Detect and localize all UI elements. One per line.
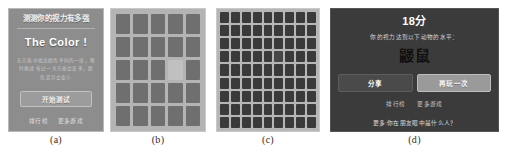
- color-tile[interactable]: [242, 38, 251, 49]
- color-tile[interactable]: [285, 51, 294, 62]
- start-test-button[interactable]: 开始测试: [20, 91, 92, 107]
- color-tile[interactable]: [231, 104, 240, 115]
- color-tile[interactable]: [186, 106, 200, 126]
- color-tile[interactable]: [307, 64, 316, 75]
- color-tile[interactable]: [242, 25, 251, 36]
- color-tile[interactable]: [231, 25, 240, 36]
- color-tile[interactable]: [307, 51, 316, 62]
- color-tile[interactable]: [285, 38, 294, 49]
- color-tile[interactable]: [285, 117, 294, 128]
- more-games-link[interactable]: 更多游戏: [417, 100, 442, 108]
- color-tile[interactable]: [307, 25, 316, 36]
- color-tile[interactable]: [307, 38, 316, 49]
- color-tile[interactable]: [264, 78, 273, 89]
- color-tile[interactable]: [186, 37, 200, 57]
- color-tile[interactable]: [231, 78, 240, 89]
- color-tile[interactable]: [264, 91, 273, 102]
- color-tile[interactable]: [168, 106, 182, 126]
- color-tile[interactable]: [220, 117, 229, 128]
- color-tile[interactable]: [253, 38, 262, 49]
- color-tile[interactable]: [186, 83, 200, 103]
- color-tile[interactable]: [296, 25, 305, 36]
- color-tile[interactable]: [220, 38, 229, 49]
- share-button[interactable]: 分享: [338, 74, 413, 92]
- color-tile[interactable]: [242, 64, 251, 75]
- color-tile[interactable]: [116, 37, 130, 57]
- color-tile[interactable]: [151, 14, 165, 34]
- color-tile[interactable]: [220, 64, 229, 75]
- color-tile[interactable]: [253, 117, 262, 128]
- color-tile[interactable]: [220, 104, 229, 115]
- color-tile[interactable]: [296, 38, 305, 49]
- color-tile[interactable]: [264, 104, 273, 115]
- color-tile[interactable]: [285, 25, 294, 36]
- replay-button[interactable]: 再玩一次: [417, 74, 492, 92]
- color-tile[interactable]: [285, 104, 294, 115]
- color-tile[interactable]: [307, 104, 316, 115]
- color-tile[interactable]: [220, 25, 229, 36]
- color-tile[interactable]: [231, 91, 240, 102]
- color-tile[interactable]: [220, 12, 229, 23]
- color-tile[interactable]: [253, 91, 262, 102]
- more-games-link[interactable]: 更多游戏: [58, 117, 83, 125]
- color-tile[interactable]: [242, 104, 251, 115]
- color-tile[interactable]: [220, 78, 229, 89]
- color-tile[interactable]: [168, 83, 182, 103]
- color-tile[interactable]: [264, 38, 273, 49]
- color-tile[interactable]: [296, 12, 305, 23]
- color-tile[interactable]: [133, 60, 147, 80]
- odd-color-tile[interactable]: [274, 51, 283, 62]
- color-tile[interactable]: [274, 64, 283, 75]
- color-tile[interactable]: [296, 64, 305, 75]
- color-tile[interactable]: [296, 117, 305, 128]
- color-tile[interactable]: [274, 117, 283, 128]
- color-tile[interactable]: [264, 12, 273, 23]
- color-tile[interactable]: [242, 91, 251, 102]
- color-tile[interactable]: [133, 106, 147, 126]
- color-tile[interactable]: [151, 106, 165, 126]
- color-tile[interactable]: [264, 25, 273, 36]
- color-tile[interactable]: [296, 51, 305, 62]
- color-tile[interactable]: [274, 78, 283, 89]
- color-tile[interactable]: [285, 78, 294, 89]
- color-tile[interactable]: [231, 64, 240, 75]
- color-tile[interactable]: [264, 117, 273, 128]
- color-tile[interactable]: [285, 91, 294, 102]
- color-tile[interactable]: [116, 83, 130, 103]
- color-tile[interactable]: [151, 60, 165, 80]
- color-tile[interactable]: [296, 104, 305, 115]
- color-tile[interactable]: [116, 14, 130, 34]
- color-tile[interactable]: [296, 91, 305, 102]
- more-promo-link[interactable]: 更多:你在朋友眼中是什么人？: [373, 118, 457, 127]
- color-tile[interactable]: [242, 78, 251, 89]
- color-tile[interactable]: [168, 37, 182, 57]
- color-tile[interactable]: [264, 51, 273, 62]
- color-tile[interactable]: [253, 64, 262, 75]
- color-tile[interactable]: [231, 117, 240, 128]
- color-tile[interactable]: [307, 91, 316, 102]
- color-tile[interactable]: [264, 64, 273, 75]
- color-tile[interactable]: [307, 117, 316, 128]
- color-tile[interactable]: [307, 78, 316, 89]
- color-tile[interactable]: [116, 106, 130, 126]
- color-tile[interactable]: [151, 83, 165, 103]
- color-tile[interactable]: [133, 37, 147, 57]
- color-tile[interactable]: [285, 12, 294, 23]
- color-tile[interactable]: [133, 14, 147, 34]
- color-tile[interactable]: [253, 104, 262, 115]
- color-tile[interactable]: [231, 51, 240, 62]
- odd-color-tile[interactable]: [168, 60, 182, 80]
- color-tile[interactable]: [133, 83, 147, 103]
- color-tile[interactable]: [285, 64, 294, 75]
- color-tile[interactable]: [307, 12, 316, 23]
- color-tile[interactable]: [242, 12, 251, 23]
- color-tile[interactable]: [186, 60, 200, 80]
- color-tile[interactable]: [296, 78, 305, 89]
- color-tile[interactable]: [231, 38, 240, 49]
- color-tile[interactable]: [151, 37, 165, 57]
- leaderboard-link[interactable]: 排行榜: [29, 117, 48, 125]
- color-tile[interactable]: [253, 78, 262, 89]
- color-tile[interactable]: [253, 12, 262, 23]
- color-tile[interactable]: [186, 14, 200, 34]
- color-tile[interactable]: [220, 91, 229, 102]
